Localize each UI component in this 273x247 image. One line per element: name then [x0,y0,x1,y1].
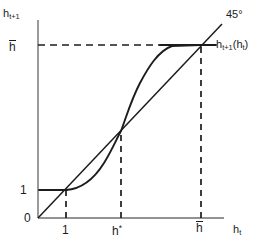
x-tick-one-text: 1 [62,223,69,237]
y-tick-label-one: 1 [20,184,27,196]
origin-label-text: 0 [24,211,31,225]
y-axis-label-subscript: t+1 [9,12,20,21]
phase-diagram-figure: ht+1 h 1 0 1 h* h ht 45° ht+1(ht) [0,0,273,247]
y-tick-hbar-overbar-text: h [9,41,16,53]
x-axis-label-subscript: t [239,228,241,237]
transition-curve-label: ht+1(ht) [216,39,248,51]
x-axis-label: ht [233,224,241,236]
x-tick-hbar-overbar-text: h [196,222,203,234]
y-tick-one-text: 1 [20,183,27,197]
y-axis-label: ht+1 [3,8,20,20]
x-tick-hstar-star: * [119,223,122,233]
origin-label: 0 [24,212,31,224]
forty-five-degree-label: 45° [226,9,243,20]
curve-label-sub1: t+1 [222,43,233,52]
forty-five-degree-text: 45° [226,8,243,20]
curve-label-close-paren: ) [245,38,249,50]
x-tick-label-hbar: h [196,222,203,234]
forty-five-degree-line [38,24,222,218]
y-tick-label-hbar: h [9,41,16,53]
x-tick-label-hstar: h* [112,224,122,237]
x-tick-label-one: 1 [62,224,69,236]
x-tick-hstar-base: h [112,224,119,238]
